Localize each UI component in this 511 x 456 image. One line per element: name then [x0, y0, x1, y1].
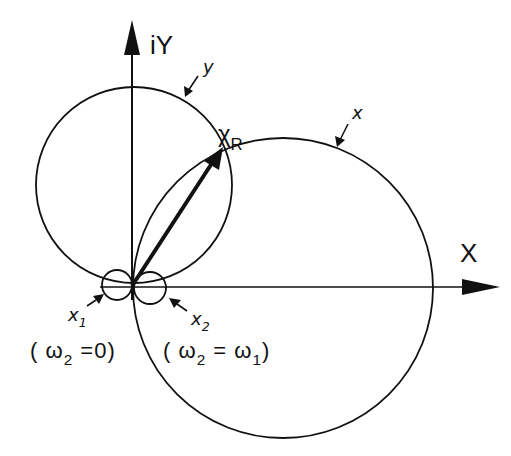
- diagram-canvas: [0, 0, 511, 456]
- y-pointer-arrow: [184, 76, 198, 97]
- cond2-subscript: 2: [197, 351, 207, 368]
- x2-label: x2: [191, 310, 210, 333]
- x1-symbol: x: [68, 304, 79, 325]
- cond2-text: ( ω: [163, 338, 197, 363]
- horizontal-axis-arrowhead: [462, 279, 500, 295]
- x1-subscript: 1: [79, 315, 87, 330]
- x-circle: [133, 138, 433, 438]
- x2-subscript: 2: [202, 319, 210, 334]
- y-circle: [36, 87, 232, 283]
- chi-r-subscript: R: [231, 135, 243, 154]
- x1-label: x1: [68, 306, 87, 329]
- cond1-text: ( ω: [30, 338, 64, 363]
- x2-condition-label: ( ω2 = ω1): [163, 340, 270, 367]
- y-circle-label: y: [203, 58, 214, 76]
- cond1-subscript: 2: [64, 351, 74, 368]
- cond1-rest: =0): [73, 338, 116, 363]
- x2-symbol: x: [191, 308, 202, 329]
- vertical-axis: [124, 20, 140, 300]
- cond2-mid: = ω: [206, 338, 252, 363]
- cond2-close: ): [262, 338, 270, 363]
- x-pointer-arrow: [335, 124, 348, 147]
- vertical-axis-arrowhead: [124, 20, 140, 55]
- chi-r-vector: [132, 147, 223, 286]
- horizontal-axis-label: X: [460, 240, 477, 266]
- horizontal-axis: [100, 279, 500, 295]
- x1-pointer-arrow: [87, 294, 104, 306]
- x1-condition-label: ( ω2 =0): [30, 340, 116, 367]
- cond2-subscript2: 1: [252, 351, 262, 368]
- chi-r-label: χR: [218, 122, 243, 153]
- chi-r-symbol: χ: [218, 120, 231, 147]
- vertical-axis-label: iY: [150, 32, 173, 58]
- x-circle-label: x: [352, 104, 363, 122]
- x1-small-circle: [102, 270, 132, 300]
- x2-pointer-arrow: [169, 298, 187, 311]
